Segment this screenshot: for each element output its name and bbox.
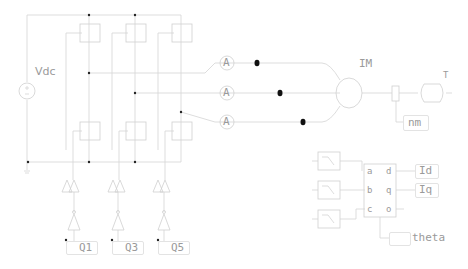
igbt-bottom-2[interactable] bbox=[119, 122, 146, 180]
schematic-canvas bbox=[0, 0, 468, 269]
igbt-top-3[interactable] bbox=[158, 24, 192, 150]
theta-label: theta bbox=[412, 232, 445, 243]
gate-driver-1[interactable] bbox=[62, 180, 80, 249]
transform-input-a: a bbox=[367, 167, 372, 176]
induction-motor[interactable] bbox=[336, 78, 392, 108]
gate-label-q5: Q5 bbox=[171, 242, 184, 253]
vdc-source[interactable] bbox=[19, 83, 35, 99]
transform-output-q: q bbox=[386, 186, 391, 195]
gate-driver-3[interactable] bbox=[153, 180, 170, 249]
ammeter-label-a: A bbox=[223, 57, 230, 68]
igbt-bottom-3[interactable] bbox=[165, 122, 192, 180]
id-output-label: Id bbox=[419, 165, 432, 176]
theta-input-box[interactable] bbox=[389, 232, 411, 246]
transform-input-c: c bbox=[367, 205, 372, 214]
transform-output-d: d bbox=[386, 167, 391, 176]
igbt-bottom-1[interactable] bbox=[73, 122, 100, 180]
motor-label: IM bbox=[359, 58, 372, 69]
igbt-top-2[interactable] bbox=[112, 24, 146, 150]
transform-output-o: o bbox=[386, 205, 391, 214]
dc-bus bbox=[24, 15, 181, 173]
mechanical-load[interactable] bbox=[421, 84, 452, 102]
current-probes[interactable] bbox=[255, 60, 306, 125]
iq-output-label: Iq bbox=[419, 184, 432, 195]
transform-input-b: b bbox=[367, 186, 372, 195]
ammeter-label-c: A bbox=[223, 116, 230, 127]
igbt-top-1[interactable] bbox=[66, 24, 100, 150]
filter-a[interactable] bbox=[312, 152, 362, 171]
junction-nodes bbox=[27, 14, 182, 241]
gate-label-q3: Q3 bbox=[125, 242, 138, 253]
ammeter-label-b: A bbox=[223, 87, 230, 98]
filter-b[interactable] bbox=[312, 181, 365, 199]
speed-output-label: nm bbox=[408, 117, 421, 128]
inverter-legs bbox=[89, 15, 215, 162]
gate-driver-2[interactable] bbox=[108, 180, 125, 249]
vdc-label: Vdc bbox=[35, 66, 56, 77]
gate-label-q1: Q1 bbox=[79, 242, 92, 253]
filter-c[interactable] bbox=[312, 209, 365, 228]
load-label: T bbox=[443, 71, 448, 80]
